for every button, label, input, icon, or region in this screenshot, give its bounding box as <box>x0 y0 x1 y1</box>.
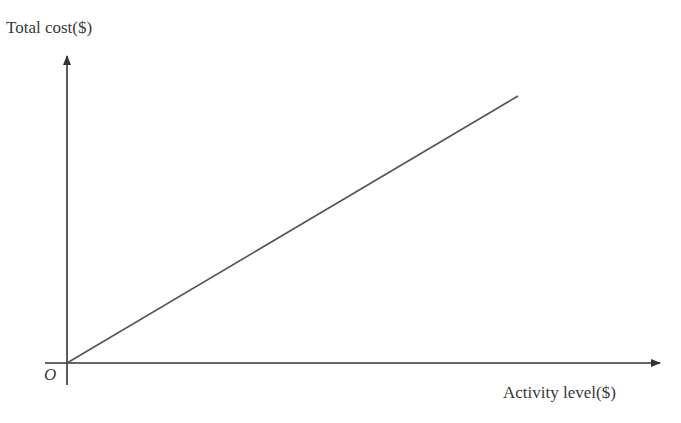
origin-label: O <box>44 365 56 385</box>
y-axis-label: Total cost($) <box>6 18 92 38</box>
total-cost-line <box>67 96 518 363</box>
cost-chart <box>0 0 681 423</box>
x-axis-label: Activity level($) <box>503 383 616 403</box>
